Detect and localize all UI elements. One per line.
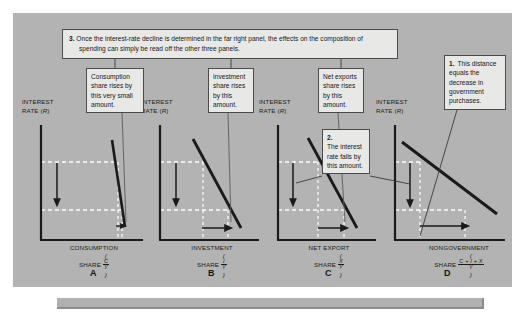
callout-step-3-number: 3. [69, 35, 75, 42]
callout-net-exports-share: Net exports share rises by this amount. [318, 68, 364, 113]
panel-a-x-label-1: CONSUMPTION [70, 244, 118, 251]
panel-a-x-fraction: (CY) [103, 252, 109, 278]
callout-step-1: 1. This distance equals the decrease in … [444, 55, 506, 110]
callout-step-1-number: 1. [449, 59, 455, 68]
panel-a-y-label-1: INTEREST [22, 98, 54, 105]
panel-b-x-label-1: INVESTMENT [191, 244, 232, 251]
callout-step-2-text: The interest rate falls by this amount. [327, 143, 363, 169]
panel-a-y-axis-label-real: INTEREST RATE (R) [22, 97, 54, 116]
callout-consumption-share-text: Consumption share rises by this very sma… [91, 73, 133, 108]
panel-b-x-label-2: SHARE [197, 261, 219, 268]
panel-d-x-label-1: NONGOVERNMENT [429, 244, 489, 251]
figure-bottom-rule [57, 298, 484, 309]
callout-step-2: 2. The interest rate falls by this amoun… [322, 129, 370, 174]
panel-d-y-label-1: INTEREST [376, 98, 408, 105]
panel-c-frac-den: Y [338, 265, 344, 271]
callout-investment-share-text: Investment share rises by this amount. [213, 73, 245, 108]
panel-letter-a: A [90, 268, 97, 278]
panel-b-y-label-1: INTEREST [141, 98, 173, 105]
panel-c-y-axis-label: INTEREST RATE (R) [259, 97, 291, 116]
callout-step-3-text: Once the interest-rate decline is determ… [76, 35, 363, 52]
panel-letter-d: D [444, 268, 451, 278]
panel-c-x-label-1: NET EXPORT [309, 244, 350, 251]
panel-c-y-label-1: INTEREST [259, 98, 291, 105]
callout-net-exports-share-text: Net exports share rises by this amount. [323, 73, 357, 108]
callout-step-2-number: 2. [327, 133, 365, 142]
panel-b-x-fraction: (IY) [221, 252, 227, 278]
panel-a-frac-den: Y [103, 265, 109, 271]
callout-investment-share: Investment share rises by this amount. [208, 68, 254, 113]
panel-d-x-axis-label: NONGOVERNMENT SHARE (C + I + XY) [404, 244, 514, 278]
panel-letter-c: C [325, 268, 332, 278]
panel-c-y-label-2: RATE (R) [259, 107, 287, 114]
panel-c-x-fraction: (XY) [338, 252, 344, 278]
callout-step-3: 3. Once the interest-rate decline is det… [62, 29, 398, 59]
panel-d-x-fraction: (C + I + XY) [458, 252, 483, 278]
figure-container: 3. Once the interest-rate decline is det… [0, 0, 525, 313]
panel-a-x-label-2: SHARE [79, 261, 101, 268]
callout-consumption-share: Consumption share rises by this very sma… [86, 68, 144, 113]
panel-b-y-label-2: RATE (R) [141, 107, 169, 114]
panel-c-x-label-2: SHARE [314, 261, 336, 268]
panel-d-frac-den: Y [458, 265, 483, 271]
panel-d-y-axis-label: INTEREST RATE (R) [376, 97, 408, 116]
panel-b-y-axis-label: INTEREST RATE (R) [141, 97, 173, 116]
panel-a-y-label-2: RATE (R) [22, 107, 50, 114]
panel-d-y-label-2: RATE (R) [376, 107, 404, 114]
panel-b-frac-den: Y [221, 265, 227, 271]
callout-step-1-text: This distance equals the decrease in gov… [449, 60, 496, 104]
panel-d-x-label-2: SHARE [434, 261, 456, 268]
panel-letter-b: B [208, 268, 215, 278]
